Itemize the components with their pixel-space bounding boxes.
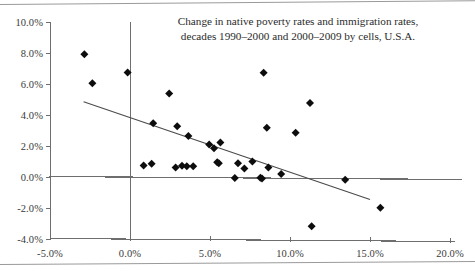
data-point-marker [140,161,148,169]
data-points [80,50,384,230]
data-point-marker [165,90,173,98]
x-axis-tick-label: -5.0% [37,248,63,259]
trend-line [84,102,370,200]
data-point-marker [88,79,96,87]
plot-area [0,0,475,271]
y-axis-tick-label: 0.0% [21,172,43,183]
y-axis-tick-label: 2.0% [21,141,43,152]
y-axis-tick-label: 10.0% [15,17,43,28]
data-point-marker [189,162,197,170]
y-axis-tick-label: 8.0% [21,48,43,59]
data-point-marker [80,50,88,58]
data-point-marker [263,124,271,132]
x-axis-tick-label: 20.0% [436,248,464,259]
y-axis-tick-label: -2.0% [17,203,43,214]
data-point-marker [264,163,272,171]
data-point-marker [376,204,384,212]
y-axis-tick-label: -4.0% [17,234,43,245]
axes [46,22,462,243]
data-point-marker [173,122,181,130]
data-point-marker [341,176,349,184]
y-axis-tick-label: 4.0% [21,110,43,121]
data-point-marker [172,163,180,171]
data-point-marker [234,159,242,167]
data-point-marker [306,99,314,107]
chart-figure: Change in native poverty rates and immig… [0,0,475,271]
y-zero-reference-line [50,177,463,180]
data-point-marker [260,69,268,77]
y-axis-tick-label: 6.0% [21,79,43,90]
data-point-marker [231,174,239,182]
data-point-marker [277,170,285,178]
data-point-marker [240,164,248,172]
trend-line-segment [84,102,370,200]
x-axis-tick-label: 5.0% [199,248,221,259]
data-point-marker [148,160,156,168]
x-axis-tick-label: 0.0% [119,248,141,259]
x-axis-tick-label: 10.0% [276,248,304,259]
data-point-marker [308,222,316,230]
data-point-marker [292,129,300,137]
x-axis-line [50,239,455,242]
data-point-marker [216,139,224,147]
x-axis-tick-label: 15.0% [356,248,384,259]
